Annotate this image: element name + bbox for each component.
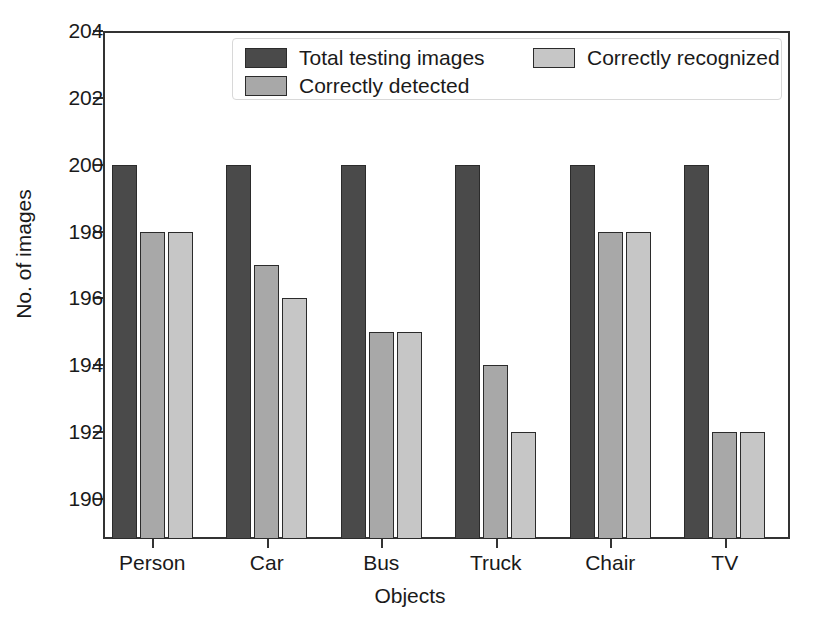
chart-legend: Total testing images Correctly detected …	[232, 38, 782, 100]
x-axis-tick	[610, 539, 612, 548]
bar-tv-total-testing-images	[684, 165, 709, 539]
y-axis-tick-label: 192	[27, 421, 103, 442]
x-axis-tick-label-tv: TV	[655, 551, 795, 575]
legend-item-correctly-detected: Correctly detected	[245, 75, 469, 96]
y-axis-title: No. of images	[12, 144, 36, 364]
y-axis-tick-label: 190	[27, 488, 103, 509]
bar-person-total-testing-images	[112, 165, 137, 539]
legend-label-correctly-recognized: Correctly recognized	[587, 47, 780, 68]
y-axis-tick-label: 200	[27, 154, 103, 175]
x-axis-tick	[267, 539, 269, 548]
y-axis-tick-label: 194	[27, 354, 103, 375]
bar-bus-correctly-detected	[369, 332, 394, 539]
y-axis-tick-label: 202	[27, 87, 103, 108]
bar-truck-total-testing-images	[455, 165, 480, 539]
legend-swatch-total-testing-images	[245, 48, 287, 68]
x-axis-tick	[496, 539, 498, 548]
bar-tv-correctly-recognized	[740, 432, 765, 539]
bar-bus-total-testing-images	[341, 165, 366, 539]
legend-item-correctly-recognized: Correctly recognized	[533, 47, 780, 68]
bar-car-correctly-recognized	[282, 298, 307, 539]
legend-label-correctly-detected: Correctly detected	[299, 75, 469, 96]
bar-truck-correctly-detected	[483, 365, 508, 539]
legend-swatch-correctly-recognized	[533, 48, 575, 68]
bar-person-correctly-recognized	[168, 232, 193, 539]
bar-tv-correctly-detected	[712, 432, 737, 539]
bar-person-correctly-detected	[140, 232, 165, 539]
x-axis-tick	[381, 539, 383, 548]
bar-chair-total-testing-images	[570, 165, 595, 539]
bar-bus-correctly-recognized	[397, 332, 422, 539]
x-axis-tick	[152, 539, 154, 548]
y-axis-tick-label: 204	[27, 20, 103, 41]
legend-label-total-testing-images: Total testing images	[299, 47, 485, 68]
bars-layer	[103, 31, 790, 539]
x-axis-title: Objects	[0, 584, 820, 608]
bar-chair-correctly-recognized	[626, 232, 651, 539]
legend-item-total-testing-images: Total testing images	[245, 47, 485, 68]
legend-swatch-correctly-detected	[245, 76, 287, 96]
bar-chart-figure: 190192194196198200202204 No. of images P…	[0, 0, 820, 618]
bar-chair-correctly-detected	[598, 232, 623, 539]
y-axis-tick-label: 196	[27, 287, 103, 308]
bar-truck-correctly-recognized	[511, 432, 536, 539]
y-axis-tick-label: 198	[27, 221, 103, 242]
bar-car-correctly-detected	[254, 265, 279, 539]
x-axis-tick	[725, 539, 727, 548]
bar-car-total-testing-images	[226, 165, 251, 539]
